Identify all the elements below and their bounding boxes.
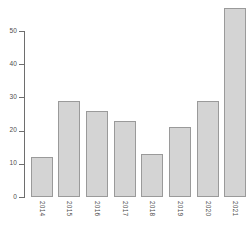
bar-2021 xyxy=(224,8,246,197)
y-tick-label: 40 xyxy=(0,61,17,68)
y-axis-line xyxy=(24,31,25,198)
bar-2020 xyxy=(197,101,219,197)
x-tick-label-2015: 2015 xyxy=(66,201,73,233)
x-tick-label-2020: 2020 xyxy=(204,201,211,233)
x-tick-label-2016: 2016 xyxy=(94,201,101,233)
x-tick-label-2014: 2014 xyxy=(38,201,45,233)
y-tick-label: 50 xyxy=(0,28,17,35)
bar-2019 xyxy=(169,127,191,197)
y-tick-mark xyxy=(19,31,24,32)
x-tick-label-2017: 2017 xyxy=(121,201,128,233)
x-tick-label-2021: 2021 xyxy=(232,201,239,233)
y-tick-mark xyxy=(19,64,24,65)
bar-2015 xyxy=(58,101,80,197)
x-tick-label-2018: 2018 xyxy=(149,201,156,233)
bar-2016 xyxy=(86,111,108,197)
y-tick-mark xyxy=(19,164,24,165)
plot-area: 01020304050 2014201520162017201820192020… xyxy=(0,0,251,233)
y-tick-mark xyxy=(19,131,24,132)
y-tick-label: 0 xyxy=(0,194,17,201)
bar-chart: 01020304050 2014201520162017201820192020… xyxy=(0,0,251,233)
bar-2018 xyxy=(141,154,163,197)
bar-2014 xyxy=(31,157,53,197)
x-tick-label-2019: 2019 xyxy=(176,201,183,233)
y-tick-label: 10 xyxy=(0,160,17,167)
y-tick-mark xyxy=(19,197,24,198)
y-tick-label: 30 xyxy=(0,94,17,101)
y-tick-label: 20 xyxy=(0,127,17,134)
y-tick-mark xyxy=(19,97,24,98)
bar-2017 xyxy=(114,121,136,197)
